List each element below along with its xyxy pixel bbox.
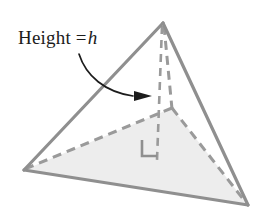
pyramid-figure: Height =h — [0, 0, 260, 212]
height-variable-h: h — [87, 27, 98, 48]
arrowhead-icon — [134, 91, 152, 101]
curved-pointer-arrow — [79, 54, 133, 96]
height-label: Height =h — [18, 27, 97, 49]
height-label-text: Height = — [18, 27, 87, 48]
